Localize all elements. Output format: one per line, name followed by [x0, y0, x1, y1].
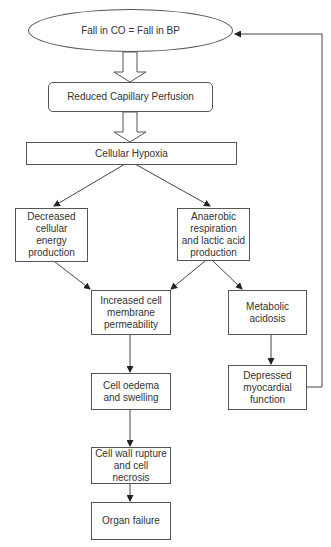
node-reduced-capillary-perfusion: Reduced Capillary Perfusion: [48, 82, 213, 112]
node-increased-permeability: Increased cell membrane permeability: [91, 290, 171, 335]
node-label: Decreased cellular energy production: [19, 211, 84, 259]
arrow-anaerobic-to-acidosis: [213, 261, 242, 289]
arrow-hypoxia-to-energy: [54, 164, 125, 206]
arrow-hypoxia-to-anaerobic: [135, 164, 210, 206]
node-label: Fall in CO = Fall in BP: [81, 25, 180, 37]
hollow-arrow-perfusion-to-hypoxia: [114, 112, 146, 142]
node-depressed-myocardial: Depressed myocardial function: [228, 365, 307, 410]
node-decreased-energy: Decreased cellular energy production: [15, 208, 88, 262]
node-fall-in-co-bp: Fall in CO = Fall in BP: [28, 9, 233, 52]
arrow-anaerobic-to-permeability: [171, 261, 205, 289]
node-organ-failure: Organ failure: [91, 502, 171, 540]
node-label: Increased cell membrane permeability: [95, 295, 167, 331]
node-label: Cell oedema and swelling: [95, 380, 167, 404]
hollow-arrow-start-to-perfusion: [114, 52, 146, 82]
arrow-energy-to-permeability: [55, 262, 90, 289]
node-anaerobic-respiration: Anaerobic respiration and lactic acid pr…: [177, 208, 250, 261]
node-label: Cellular Hypoxia: [95, 148, 168, 160]
node-label: Depressed myocardial function: [232, 370, 303, 406]
node-cellular-hypoxia: Cellular Hypoxia: [26, 142, 237, 165]
node-metabolic-acidosis: Metabolic acidosis: [228, 290, 307, 335]
node-cell-wall-rupture: Cell wall rupture and cell necrosis: [91, 447, 171, 484]
node-label: Cell wall rupture and cell necrosis: [95, 448, 167, 484]
node-cell-oedema: Cell oedema and swelling: [91, 373, 171, 410]
node-label: Organ failure: [102, 515, 160, 527]
node-label: Anaerobic respiration and lactic acid pr…: [181, 211, 246, 259]
node-label: Reduced Capillary Perfusion: [67, 91, 194, 103]
node-label: Metabolic acidosis: [232, 301, 303, 325]
